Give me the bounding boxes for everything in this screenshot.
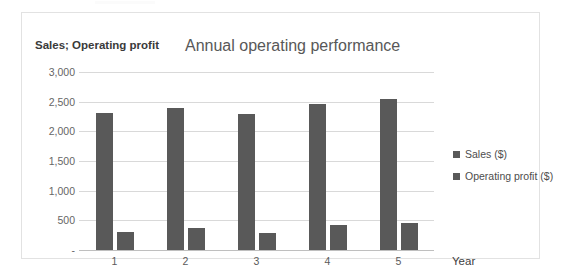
legend-item[interactable]: Operating profit ($) [453,170,563,182]
y-axis-tick-label: 1,000 [23,185,75,197]
bar-operating-profit-4 [330,225,347,250]
x-axis-tick-label: 5 [379,255,419,267]
y-axis-title: Sales; Operating profit [35,39,159,51]
y-axis-tick-label: - [23,244,75,256]
x-axis-tick-label: 4 [308,255,348,267]
bar-sales-4 [309,104,326,250]
page-artifact [95,1,155,4]
y-axis-tick-label: 2,500 [23,96,75,108]
chart-legend: Sales ($)Operating profit ($) [453,148,563,192]
bar-operating-profit-1 [117,232,134,250]
x-axis-tick-label: 2 [166,255,206,267]
y-axis-tick-label: 3,000 [23,66,75,78]
bar-operating-profit-2 [188,228,205,250]
chart-title: Annual operating performance [185,37,400,55]
bar-operating-profit-3 [259,233,276,250]
bar-sales-3 [238,114,255,250]
bar-sales-2 [167,108,184,250]
chart-container: Sales; Operating profit Annual operating… [21,12,540,259]
gridline [79,72,434,73]
y-axis-tick-label: 1,500 [23,155,75,167]
y-axis-tick-labels: 3,0002,5002,0001,5001,000500- [22,72,75,250]
y-axis-tick-label: 2,000 [23,125,75,137]
plot-area [79,72,434,250]
x-axis-tick-label: 3 [237,255,277,267]
legend-item-label: Operating profit ($) [465,170,553,182]
axis-baseline [79,250,434,251]
x-axis-title: Year [452,255,475,267]
bar-sales-1 [96,113,113,250]
x-axis-tick-label: 1 [95,255,135,267]
legend-swatch-icon [453,173,460,180]
legend-item[interactable]: Sales ($) [453,148,563,160]
bar-sales-5 [380,99,397,250]
legend-item-label: Sales ($) [465,148,507,160]
legend-swatch-icon [453,151,460,158]
bar-operating-profit-5 [401,223,418,250]
y-axis-tick-label: 500 [23,214,75,226]
